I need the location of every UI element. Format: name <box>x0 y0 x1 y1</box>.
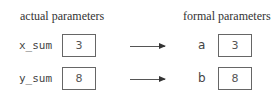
formal-param-value-box-2: 8 <box>218 67 252 90</box>
formal-param-name-2: b <box>198 71 206 85</box>
arrow-right-icon <box>130 46 165 47</box>
formal-param-value-box-1: 3 <box>218 34 252 57</box>
actual-parameters-heading: actual parameters <box>20 9 104 24</box>
actual-param-value-box-1: 3 <box>62 34 96 57</box>
actual-param-name-1: x_sum <box>19 39 52 52</box>
formal-parameters-heading: formal parameters <box>183 9 271 24</box>
arrow-right-icon <box>130 79 165 80</box>
actual-param-value-box-2: 8 <box>62 67 96 90</box>
formal-param-name-1: a <box>198 38 205 52</box>
actual-param-name-2: y_sum <box>19 72 52 85</box>
